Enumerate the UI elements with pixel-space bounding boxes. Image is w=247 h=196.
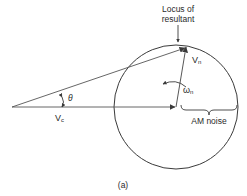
figure-caption: (a) [118,180,129,190]
am-noise-label: AM noise [191,116,227,126]
locus-label-line1: Locus of [162,4,195,14]
resultant-phasor-arrow [12,48,185,107]
omega-n-label: ωn [183,85,193,95]
theta-angle-arc [62,97,64,107]
vc-label: Vc [55,113,64,123]
locus-label-line2: resultant [162,14,195,24]
theta-label: θ [68,93,73,103]
phasor-diagram: Locus of resultant Vn ωn θ Vc AM noise (… [0,0,247,196]
vn-phasor-arrow [176,47,186,107]
vn-label: Vn [192,55,201,65]
am-noise-brace [181,105,237,115]
